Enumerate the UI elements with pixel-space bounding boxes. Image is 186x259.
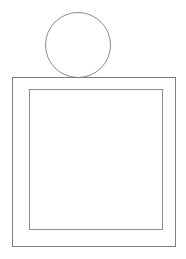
- drawing-canvas: [0, 0, 186, 259]
- canvas-background: [0, 0, 186, 259]
- figure-svg: [0, 0, 186, 259]
